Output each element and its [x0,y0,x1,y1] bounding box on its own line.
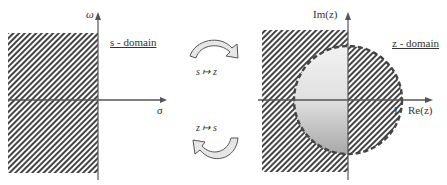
inverse-mapping-arrow-icon [193,138,238,159]
z-domain-title: z - domain [392,37,439,49]
s-imag-axis-arrow-icon [95,12,101,20]
s-real-axis-label: σ [157,104,162,116]
s-left-half-plane-hatched [8,33,98,173]
forward-mapping-label: s ↦ z [196,66,217,77]
z-imag-axis-arrow-icon [345,12,351,20]
s-imag-axis-label: ω [86,8,94,20]
forward-mapping-arrow-icon [190,40,238,58]
s-real-axis-arrow-icon [160,97,167,103]
mapping-diagram [0,0,447,185]
z-real-axis-arrow-icon [425,97,433,103]
unit-marker-label: 1 [393,104,399,116]
z-imag-axis-label: Im(z) [313,8,337,20]
inverse-mapping-label: z ↦ s [196,122,217,133]
s-domain-title: s - domain [110,36,156,48]
z-real-axis-label: Re(z) [408,104,432,116]
